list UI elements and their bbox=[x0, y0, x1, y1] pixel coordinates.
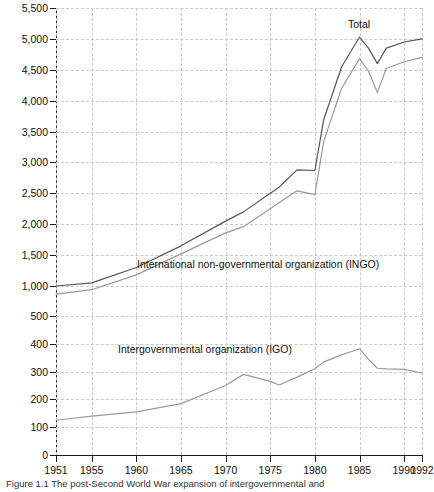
y-tick-label: 0 bbox=[0, 450, 48, 460]
x-tick-label: 1970 bbox=[210, 465, 242, 476]
figure-caption: Figure 1.1 The post-Second World War exp… bbox=[6, 478, 430, 490]
x-tick-label: 1955 bbox=[76, 465, 108, 476]
y-tick-label: 1,500 bbox=[0, 250, 48, 260]
figure-container: 1,0001,5002,0002,5003,0003,5004,0004,500… bbox=[0, 0, 434, 492]
x-tick bbox=[270, 455, 271, 462]
annotation-total: Total bbox=[348, 18, 370, 30]
series-lines bbox=[56, 8, 422, 455]
x-tick-label: 1951 bbox=[40, 465, 72, 476]
x-tick bbox=[136, 455, 137, 462]
y-tick-label: 200 bbox=[0, 394, 48, 404]
x-tick bbox=[360, 455, 361, 462]
x-tick bbox=[92, 455, 93, 462]
y-tick-label: 4,000 bbox=[0, 96, 48, 106]
x-tick-label: 1985 bbox=[344, 465, 376, 476]
y-tick-label: 3,500 bbox=[0, 127, 48, 137]
series-line-igo bbox=[56, 349, 422, 420]
series-line-total bbox=[56, 37, 422, 286]
y-tick-label: 5,500 bbox=[0, 3, 48, 13]
x-tick bbox=[56, 455, 57, 462]
x-tick bbox=[181, 455, 182, 462]
y-tick-label: 400 bbox=[0, 339, 48, 349]
y-tick-label: 1,000 bbox=[0, 281, 48, 291]
gridline-vertical bbox=[422, 8, 423, 455]
y-tick-label: 100 bbox=[0, 422, 48, 432]
x-tick-label: 1980 bbox=[299, 465, 331, 476]
y-tick-label: 2,000 bbox=[0, 219, 48, 229]
y-tick-label: 300 bbox=[0, 367, 48, 377]
x-tick-label: 1992 bbox=[406, 465, 434, 476]
x-tick bbox=[404, 455, 405, 462]
x-axis-line bbox=[56, 455, 422, 456]
y-tick-label: 5,000 bbox=[0, 34, 48, 44]
y-tick-label: 4,500 bbox=[0, 65, 48, 75]
x-tick bbox=[315, 455, 316, 462]
annotation-igo: Intergovernmental organization (IGO) bbox=[118, 343, 292, 355]
y-tick-label: 3,000 bbox=[0, 157, 48, 167]
x-tick bbox=[422, 455, 423, 462]
x-tick-label: 1975 bbox=[254, 465, 286, 476]
y-tick-label: 2,500 bbox=[0, 188, 48, 198]
x-tick-label: 1965 bbox=[165, 465, 197, 476]
plot-area bbox=[56, 8, 422, 455]
annotation-ingo: International non-governmental organizat… bbox=[137, 258, 379, 270]
x-tick-label: 1960 bbox=[120, 465, 152, 476]
y-tick-label: 500 bbox=[0, 311, 48, 321]
x-tick bbox=[226, 455, 227, 462]
